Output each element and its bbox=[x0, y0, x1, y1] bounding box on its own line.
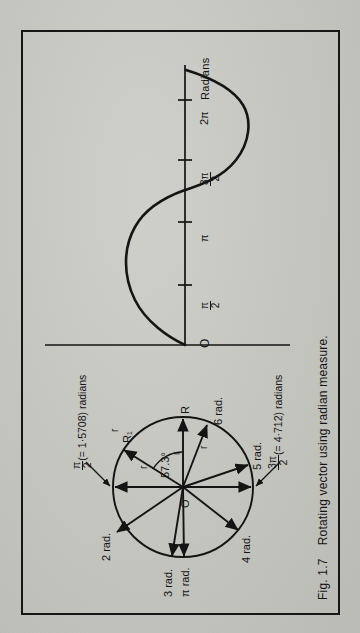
annotation-3pi2-denominator: 2 bbox=[279, 455, 289, 470]
tick-3pi2-denominator: 2 bbox=[211, 172, 221, 186]
tick-label-pi-over-2: π 2 bbox=[200, 301, 220, 310]
arc-label-r-3: r bbox=[172, 452, 182, 455]
tick-label-three-pi-over-2: 3π 2 bbox=[200, 172, 220, 186]
circle-label-R: R bbox=[180, 406, 191, 414]
sine-curve bbox=[126, 70, 248, 345]
angle-label-57-3: 57.3° bbox=[160, 452, 171, 478]
tick-pi2-numerator: π bbox=[200, 301, 211, 310]
vector-2-rad bbox=[117, 487, 183, 532]
vector-label-pi-rad: π rad. bbox=[180, 567, 191, 597]
figure-caption-text: Rotating vector using radian measure. bbox=[316, 335, 330, 545]
annotation-pi-over-2: π 2 (= 1·5708) radians bbox=[72, 375, 93, 470]
figure-caption-number: Fig. 1.7 bbox=[316, 558, 330, 600]
tick-label-pi: π bbox=[199, 234, 210, 242]
vector-label-6-rad: 6 rad. bbox=[213, 397, 224, 425]
arc-label-r-4: r bbox=[199, 446, 209, 449]
circle-centre-label: O bbox=[180, 499, 191, 508]
figure-drawing bbox=[0, 0, 360, 633]
annotation-pi2-denominator: 2 bbox=[83, 461, 93, 470]
vector-label-2-rad: 2 rad. bbox=[101, 533, 112, 561]
figure-caption: Fig. 1.7 Rotating vector using radian me… bbox=[317, 335, 329, 600]
vector-3-rad bbox=[172, 487, 183, 556]
vector-label-4-rad: 4 rad. bbox=[241, 535, 252, 563]
tick-pi2-denominator: 2 bbox=[211, 301, 221, 310]
vector-4-rad bbox=[183, 487, 238, 530]
arc-label-r-2: r bbox=[139, 466, 149, 469]
vector-label-5-rad: 5 rad. bbox=[252, 442, 263, 470]
arc-label-r-1: r bbox=[110, 429, 120, 432]
vector-label-3-rad: 3 rad. bbox=[163, 569, 174, 597]
tick-label-two-pi: 2π bbox=[199, 111, 210, 125]
wave-origin-label: O bbox=[199, 339, 211, 348]
vector-5-rad bbox=[183, 465, 248, 487]
tick-3pi2-numerator: 3π bbox=[200, 172, 211, 186]
annotation-three-pi-over-2: 3π 2 (= 4·712) radians bbox=[268, 375, 289, 470]
vector-6-rad bbox=[183, 425, 207, 487]
annotation-3pi2-suffix: (= 4·712) radians bbox=[273, 375, 284, 455]
annotation-pi2-suffix: (= 1·5708) radians bbox=[77, 375, 88, 461]
radians-axis-label: Radians bbox=[200, 58, 211, 100]
wave-axis-group bbox=[45, 65, 290, 345]
vector-pi-rad bbox=[183, 487, 184, 556]
circle-label-R1: R₁ bbox=[122, 431, 133, 443]
